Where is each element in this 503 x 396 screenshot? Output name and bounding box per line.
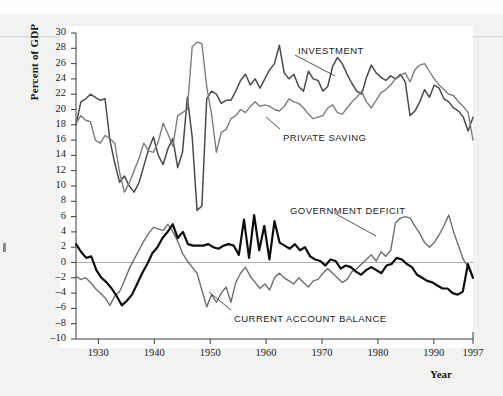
series-annotation-government-deficit: GOVERNMENT DEFICIT <box>290 205 406 216</box>
y-tick-label: 30 <box>40 26 66 37</box>
y-tick-label: –4 <box>40 286 66 297</box>
y-tick-label: –6 <box>40 301 66 312</box>
y-tick-label: 18 <box>40 118 66 129</box>
y-tick-label: –8 <box>40 317 66 328</box>
y-tick-label: 14 <box>40 148 66 159</box>
y-tick-label: 20 <box>40 103 66 114</box>
y-tick-label: 26 <box>40 57 66 68</box>
y-tick-label: 16 <box>40 133 66 144</box>
x-tick-label: 1997 <box>453 347 493 358</box>
y-tick-label: –10 <box>40 332 66 343</box>
x-tick-label: 1940 <box>134 347 174 358</box>
x-tick-label: 1990 <box>414 347 454 358</box>
y-tick-label: 0 <box>40 256 66 267</box>
x-tick-label: 1970 <box>302 347 342 358</box>
x-tick-label: 1960 <box>246 347 286 358</box>
chart-canvas <box>0 0 503 396</box>
series-annotation-current-account-balance: CURRENT ACCOUNT BALANCE <box>234 313 387 324</box>
y-tick-label: –2 <box>40 271 66 282</box>
y-tick-label: 28 <box>40 41 66 52</box>
y-tick-label: 24 <box>40 72 66 83</box>
x-tick-label: 1950 <box>190 347 230 358</box>
y-tick-label: 8 <box>40 194 66 205</box>
x-tick-label: 1980 <box>358 347 398 358</box>
y-tick-label: 10 <box>40 179 66 190</box>
y-tick-label: 2 <box>40 240 66 251</box>
y-tick-label: 4 <box>40 225 66 236</box>
y-tick-label: 6 <box>40 210 66 221</box>
y-tick-label: 22 <box>40 87 66 98</box>
x-tick-label: 1930 <box>78 347 118 358</box>
y-tick-label: 12 <box>40 164 66 175</box>
series-annotation-investment: INVESTMENT <box>298 45 364 56</box>
series-annotation-private-saving: PRIVATE SAVING <box>283 132 366 143</box>
chart-page: Percent of GDP Year 30282624222018161412… <box>0 0 503 396</box>
